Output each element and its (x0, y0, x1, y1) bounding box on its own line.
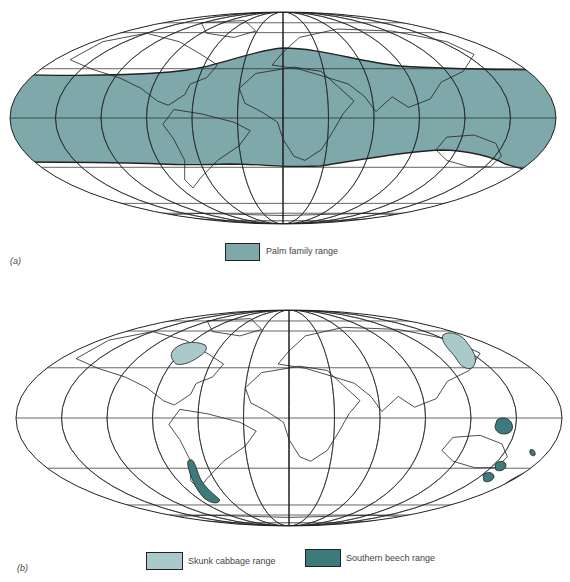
southern-beech-new-zealand (501, 470, 535, 493)
skunk-cabbage-north-america (171, 342, 206, 364)
southern-beech-new-caledonia (530, 449, 535, 455)
legend-label-skunk-cabbage: Skunk cabbage range (188, 556, 276, 566)
southern-beech-new-guinea (495, 418, 513, 434)
coastline-africa (245, 366, 360, 461)
panel-label-a: (a) (10, 256, 21, 266)
southern-beech-se-australia-1 (495, 461, 506, 471)
world-map-skunk-beech-range (0, 300, 570, 535)
legend-swatch-southern-beech (305, 549, 341, 567)
graticule (16, 310, 562, 526)
legend-swatch-palm (225, 243, 260, 261)
legend-label-southern-beech: Southern beech range (346, 553, 435, 563)
legend-label-palm: Palm family range (266, 246, 338, 256)
legend-swatch-skunk-cabbage (146, 552, 183, 570)
coastline-north-america (76, 332, 223, 405)
panel-label-b: (b) (17, 563, 28, 573)
coastlines (76, 319, 507, 523)
graticule (10, 12, 556, 224)
world-map-palm-range (0, 0, 570, 230)
southern-beech-tasmania (483, 473, 494, 482)
skunk-cabbage-east-asia (442, 333, 475, 369)
